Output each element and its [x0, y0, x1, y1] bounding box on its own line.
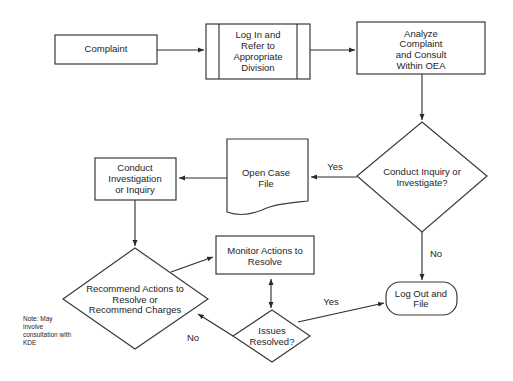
- node-analyze-label-line: Within OEA: [396, 60, 446, 71]
- node-login-label-line: Refer to: [241, 40, 275, 51]
- node-logout-label-line: File: [413, 298, 428, 309]
- node-analyze: Analyze Complaint and Consult Within OEA: [357, 22, 485, 74]
- edge-issues-to-logout-yes: [298, 303, 384, 322]
- node-login-label-line: Appropriate: [233, 51, 282, 62]
- edge-label-yes-open-case: Yes: [327, 161, 343, 172]
- edge-label-no-recommend: No: [187, 332, 199, 343]
- node-conduct-decision: Conduct Inquiry or Investigate?: [357, 122, 487, 232]
- note-kde: Note: May involve consultation with KDE: [23, 315, 71, 346]
- node-login: Log In and Refer to Appropriate Division: [206, 24, 310, 79]
- node-recommend-label-line: Recommend Actions to: [86, 283, 184, 294]
- node-analyze-label-line: and Consult: [396, 49, 447, 60]
- note-line: KDE: [23, 339, 37, 346]
- node-investigate-label-line: or Inquiry: [115, 184, 155, 195]
- node-analyze-label-line: Complaint: [400, 38, 443, 49]
- node-open-case: Open Case File: [227, 139, 308, 214]
- node-issues: Issues Resolved?: [233, 310, 310, 362]
- node-login-label-line: Division: [241, 62, 274, 73]
- node-recommend-label-line: Recommend Charges: [89, 304, 182, 315]
- edge-recommend-to-monitor: [171, 257, 213, 272]
- node-monitor-label-line: Resolve: [248, 256, 282, 267]
- node-issues-label-line: Resolved?: [250, 336, 295, 347]
- node-logout: Log Out and File: [386, 282, 457, 315]
- note-line: involve: [23, 323, 44, 330]
- node-issues-label-line: Issues: [258, 325, 286, 336]
- node-login-label-line: Log In and: [236, 29, 281, 40]
- edge-label-yes-logout: Yes: [323, 296, 339, 307]
- node-open-case-label-line: Open Case: [242, 167, 290, 178]
- note-line: consultation with: [23, 331, 71, 338]
- node-conduct-decision-label-line: Investigate?: [396, 177, 447, 188]
- edge-label-no-logout: No: [430, 248, 442, 259]
- note-line: Note: May: [23, 315, 53, 323]
- node-investigate-label-line: Conduct: [117, 162, 153, 173]
- edge-issues-to-recommend-no: [198, 314, 233, 336]
- node-investigate-label-line: Investigation: [108, 173, 161, 184]
- node-complaint-label: Complaint: [85, 43, 128, 54]
- node-monitor-label-line: Monitor Actions to: [227, 245, 303, 256]
- node-investigate: Conduct Investigation or Inquiry: [95, 158, 176, 200]
- node-open-case-label-line: File: [258, 178, 273, 189]
- node-conduct-decision-label-line: Conduct Inquiry or: [383, 166, 461, 177]
- flowchart: Yes No Yes No Complaint Log In and Refer…: [0, 0, 513, 381]
- node-complaint: Complaint: [55, 35, 157, 64]
- node-monitor: Monitor Actions to Resolve: [216, 236, 314, 274]
